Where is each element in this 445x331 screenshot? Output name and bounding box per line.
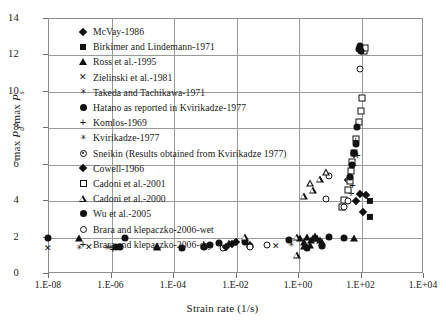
data-point <box>367 213 373 219</box>
chart-figure: max Pd/max Ps Strain rate (1/s) McVay-19… <box>0 0 445 331</box>
marker-filled-circle-icon <box>326 233 333 240</box>
legend-item: ✳Kvirikadze-1977 <box>76 130 287 145</box>
x-tick-label: 1.E-02 <box>205 279 267 290</box>
gridline-vertical <box>362 19 363 272</box>
y-tick-label: 4 <box>0 195 19 206</box>
data-point <box>357 107 364 114</box>
y-tick-mark <box>43 91 48 92</box>
data-point <box>293 250 301 257</box>
x-tick-mark <box>423 273 424 278</box>
legend-item: McVay-1986 <box>76 24 287 39</box>
marker-filled-triangle-icon <box>350 235 358 242</box>
x-tick-mark <box>236 273 237 278</box>
marker-open-triangle-icon <box>79 195 87 202</box>
legend-label: Hatano as reported in Kvirikadze-1977 <box>90 102 246 113</box>
data-point <box>45 235 52 242</box>
data-point <box>341 204 348 211</box>
marker-star-icon: ✳ <box>80 88 87 96</box>
legend-label: Cowell-1966 <box>90 163 144 174</box>
marker-plus-icon: + <box>80 239 86 250</box>
legend-marker <box>76 165 90 171</box>
data-point <box>322 168 330 175</box>
legend-label: Cadoni et al.-2000 <box>90 193 166 204</box>
marker-open-triangle-icon <box>300 192 308 199</box>
data-point <box>326 233 333 240</box>
legend-marker <box>76 210 90 217</box>
x-tick-label: 1.E+02 <box>330 279 392 290</box>
legend-item: Brara and klepaczko-2006-wet <box>76 221 287 236</box>
legend-label: Birkimer and Lindemann-1971 <box>90 41 215 52</box>
legend-marker: ✳ <box>76 88 90 96</box>
marker-plus-icon: + <box>352 135 358 146</box>
data-point <box>354 124 361 131</box>
data-point <box>346 174 353 181</box>
marker-filled-circle-icon <box>346 174 353 181</box>
y-tick-label: 12 <box>0 49 19 60</box>
marker-filled-circle-icon <box>80 210 87 217</box>
legend-label: Ross et al.-1995 <box>90 56 157 67</box>
marker-filled-triangle-icon <box>79 58 87 65</box>
legend-item: Ross et al.-1995 <box>76 54 287 69</box>
data-point <box>360 209 366 215</box>
marker-star-icon: ✳ <box>80 134 87 142</box>
legend-marker: ✕ <box>76 73 90 82</box>
marker-open-circle-icon <box>341 204 348 211</box>
data-point <box>367 198 373 204</box>
chart-legend: McVay-1986Birkimer and Lindemann-1971Ros… <box>76 24 287 252</box>
marker-star-icon: ✳ <box>288 241 295 249</box>
legend-item: ✕Zielinski et al.-1981 <box>76 70 287 85</box>
marker-filled-circle-icon <box>354 124 361 131</box>
y-tick-label: 6 <box>0 158 19 169</box>
legend-item: +Brara and klepaczko-2006-dry <box>76 237 287 252</box>
y-tick-label: 2 <box>0 231 19 242</box>
x-tick-label: 1.E+04 <box>392 279 445 290</box>
legend-item: +Komlos-1969 <box>76 115 287 130</box>
legend-label: Brara and klepaczko-2006-wet <box>90 224 214 235</box>
marker-dot-circle-icon <box>323 196 330 203</box>
data-point <box>345 187 352 194</box>
y-tick-label: 14 <box>0 13 19 24</box>
marker-open-circle-icon <box>356 66 363 73</box>
marker-cross-icon: ✕ <box>79 73 87 82</box>
legend-label: Wu et al.-2005 <box>90 208 151 219</box>
data-point <box>363 192 369 198</box>
marker-filled-square-icon <box>367 198 373 204</box>
data-point <box>300 191 308 198</box>
data-point <box>353 198 359 204</box>
marker-filled-circle-icon <box>80 104 87 111</box>
legend-item: Cowell-1966 <box>76 161 287 176</box>
data-point <box>316 175 324 182</box>
legend-marker <box>76 104 90 111</box>
legend-item: Cadoni et al.-2001 <box>76 176 287 191</box>
x-tick-label: 1.E-04 <box>142 279 204 290</box>
marker-filled-diamond-icon <box>79 27 87 35</box>
legend-item: Hatano as reported in Kvirikadze-1977 <box>76 100 287 115</box>
marker-open-triangle-icon <box>293 233 301 240</box>
data-point <box>319 242 326 249</box>
x-tick-label: 1.E-08 <box>17 279 79 290</box>
y-tick-label: 0 <box>0 268 19 279</box>
legend-marker <box>76 29 90 35</box>
y-tick-label: 10 <box>0 86 19 97</box>
legend-label: McVay-1986 <box>90 26 144 37</box>
data-point: + <box>350 159 356 170</box>
data-point <box>350 234 358 241</box>
marker-open-triangle-icon <box>309 187 317 194</box>
legend-item: ✳Takeda and Tachikawa-1971 <box>76 85 287 100</box>
legend-marker: + <box>76 117 90 128</box>
data-point <box>357 47 364 54</box>
marker-filled-circle-icon <box>357 47 364 54</box>
legend-marker <box>76 58 90 65</box>
y-tick-mark <box>43 127 48 128</box>
marker-cross-icon: ✕ <box>44 243 52 252</box>
legend-label: Komlos-1969 <box>90 117 147 128</box>
x-tick-mark <box>48 273 49 278</box>
marker-filled-square-icon <box>367 213 373 219</box>
legend-item: Birkimer and Lindemann-1971 <box>76 39 287 54</box>
data-point: ✳ <box>288 241 295 249</box>
legend-marker: + <box>76 239 90 250</box>
legend-marker <box>76 44 90 50</box>
legend-label: Takeda and Tachikawa-1971 <box>90 87 205 98</box>
x-tick-label: 1.E+00 <box>267 279 329 290</box>
marker-open-square-icon <box>345 187 352 194</box>
